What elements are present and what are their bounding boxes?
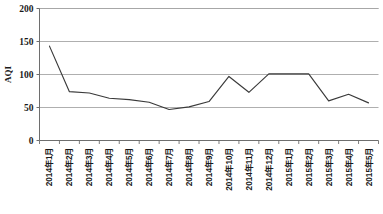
x-tick-label-10: 2014年11月 (244, 148, 254, 191)
y-tick-label-200: 200 (19, 4, 34, 14)
x-tick-label-2: 2014年3月 (84, 148, 94, 187)
x-tick-label-16: 2015年5月 (364, 148, 374, 187)
y-axis-title-text: AQI (3, 66, 13, 84)
x-tick-label-11: 2014年12月 (264, 148, 274, 191)
x-tick-label-15: 2015年4月 (344, 148, 354, 187)
y-tick-label-150: 150 (19, 37, 34, 47)
x-tick-label-8: 2014年9月 (204, 148, 214, 187)
x-tick-label-4: 2014年5月 (124, 148, 134, 187)
x-tick-label-0: 2014年1月 (44, 148, 54, 187)
x-axis-ticks (40, 141, 379, 145)
aqi-line-chart: 050100150200 2014年1月2014年2月2014年3月2014年4… (0, 0, 383, 214)
x-tick-label-6: 2014年7月 (164, 148, 174, 187)
y-tick-label-50: 50 (24, 103, 34, 113)
x-tick-label-3: 2014年4月 (104, 148, 114, 187)
x-tick-label-12: 2015年1月 (284, 148, 294, 187)
y-axis-tick-labels: 050100150200 (19, 4, 34, 146)
y-axis-title: AQI (3, 66, 13, 84)
x-tick-label-13: 2015年2月 (304, 148, 314, 187)
y-tick-label-0: 0 (29, 136, 34, 146)
x-tick-label-14: 2015年3月 (324, 148, 334, 187)
chart-canvas: 050100150200 2014年1月2014年2月2014年3月2014年4… (0, 0, 383, 214)
x-tick-label-5: 2014年6月 (144, 148, 154, 187)
x-tick-label-7: 2014年8月 (184, 148, 194, 187)
x-axis-tick-labels: 2014年1月2014年2月2014年3月2014年4月2014年5月2014年… (44, 148, 373, 191)
x-tick-label-1: 2014年2月 (64, 148, 74, 187)
y-tick-label-100: 100 (19, 70, 34, 80)
x-tick-label-9: 2014年10月 (224, 148, 234, 191)
